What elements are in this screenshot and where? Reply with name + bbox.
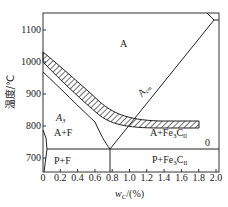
x-tick-0.2: 0.2 [54,172,67,183]
y-tick-700: 700 [26,152,41,163]
x-tick-2.0: 2.0 [210,172,223,183]
x-tick-0.8: 0.8 [106,172,119,183]
x-tick-0.6: 0.6 [89,172,102,183]
y-tick-1000: 1000 [21,56,41,67]
x-tick-1.4: 1.4 [158,172,171,183]
zero-mark-label: 0 [205,137,210,148]
x-tick-1.8: 1.8 [192,172,205,183]
plot-frame [43,13,219,172]
region-p-plus-fe3c: P+Fe3CII [152,154,187,167]
ferrite-solvus-line [43,130,47,172]
x-tick-1.6: 1.6 [175,172,188,183]
region-a-plus-f: A+F [54,127,73,138]
y-tick-900: 900 [26,88,41,99]
region-a-plus-fe3c: A+Fe3CII [150,127,187,140]
phase-diagram: 1100 1000 900 800 700 0 0.2 0.4 0.6 0.8 … [0,0,228,207]
region-p-plus-f: P+F [54,155,71,166]
y-tick-1100: 1100 [21,24,41,35]
acm-label: Acm [134,81,153,100]
x-tick-0.4: 0.4 [71,172,84,183]
region-austenite: A [120,38,128,49]
x-tick-0: 0 [41,172,46,183]
x-tick-1.0: 1.0 [123,172,136,183]
y-axis-label: 温度/℃ [4,75,16,110]
x-tick-1.2: 1.2 [141,172,154,183]
a3-label: A3 [55,112,66,125]
liquidus-corner-line [207,13,214,20]
x-axis-label: wC/(%) [115,188,144,201]
hatched-heating-band [43,52,199,128]
y-tick-800: 800 [26,120,41,131]
